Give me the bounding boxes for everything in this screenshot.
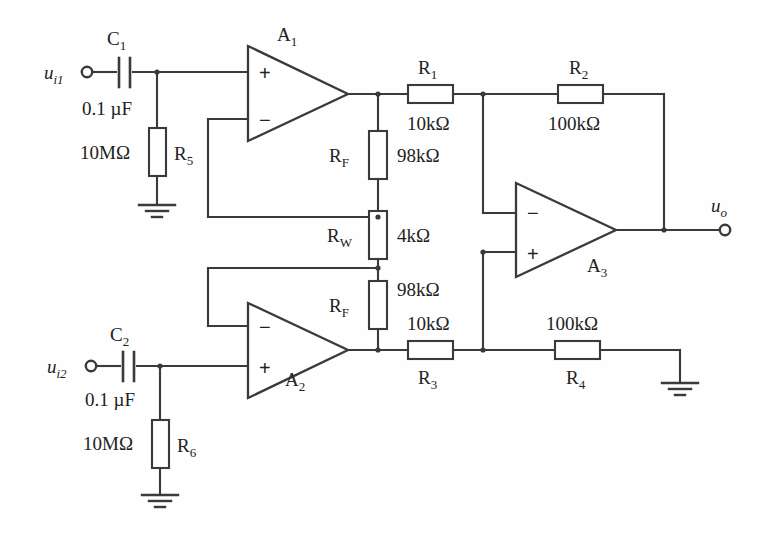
resistor-r4-body: [555, 341, 600, 359]
resistor-rf-top-body: [369, 131, 387, 179]
junction-a1-out: [375, 91, 380, 96]
terminal-ui2[interactable]: [86, 361, 96, 371]
opamp-a2-plus: +: [259, 357, 271, 379]
junction-rf-rw-top: [375, 214, 380, 219]
opamp-a1-minus: −: [259, 109, 271, 131]
label-uo: uo: [711, 195, 728, 220]
label-ui1: ui1: [44, 62, 64, 87]
resistor-rf-bottom-body: [369, 281, 387, 329]
junction-c2-r6: [157, 363, 162, 368]
junction-r1-r2: [480, 91, 485, 96]
junction-r3-r4: [480, 347, 485, 352]
label-r3: R3: [418, 367, 437, 392]
junction-a3-plus: [480, 249, 485, 254]
resistor-r2-body: [558, 85, 603, 103]
label-r1: R1: [418, 57, 437, 82]
label-rf-top: RF: [329, 145, 349, 170]
label-c1-value: 0.1 µF: [82, 98, 132, 119]
label-r3-value: 10kΩ: [407, 313, 450, 334]
label-c2: C2: [110, 324, 129, 349]
label-r5: R5: [174, 143, 193, 168]
opamp-a2-minus: −: [259, 316, 271, 338]
label-r4-value: 100kΩ: [546, 313, 598, 334]
opamp-a3-plus: +: [527, 243, 539, 265]
resistor-r6-body: [152, 420, 169, 468]
junction-c1-r5: [154, 69, 159, 74]
label-ui2: ui2: [47, 356, 67, 381]
label-rf-bottom-value: 98kΩ: [397, 279, 440, 300]
label-rw-value: 4kΩ: [397, 225, 430, 246]
label-rf-bottom: RF: [329, 295, 349, 320]
label-a1: A1: [277, 24, 297, 49]
junction-rw-rf-bottom: [375, 265, 380, 270]
circuit-schematic: ui1 C1 0.1 µF 10MΩ R5 A1 + − R1 10kΩ R2 …: [0, 0, 774, 542]
junction-output-rail: [661, 227, 666, 232]
label-r6: R6: [177, 435, 197, 460]
label-a3: A3: [587, 255, 607, 280]
resistor-r3-body: [408, 341, 453, 359]
resistor-r5-body: [149, 128, 166, 176]
label-r4: R4: [566, 367, 586, 392]
junction-a2-out: [375, 347, 380, 352]
label-r2: R2: [569, 57, 588, 82]
circuit-diagram-canvas: ui1 C1 0.1 µF 10MΩ R5 A1 + − R1 10kΩ R2 …: [0, 0, 774, 542]
label-c1: C1: [107, 28, 126, 53]
opamp-a3-minus: −: [527, 202, 539, 224]
resistor-r1-body: [408, 85, 453, 103]
label-rf-top-value: 98kΩ: [397, 145, 440, 166]
label-r1-value: 10kΩ: [407, 113, 450, 134]
label-r5-value: 10MΩ: [80, 142, 130, 163]
label-r6-value: 10MΩ: [83, 433, 133, 454]
terminal-uo[interactable]: [720, 225, 730, 235]
label-c2-value: 0.1 µF: [85, 389, 135, 410]
opamp-a1-plus: +: [259, 62, 271, 84]
label-r2-value: 100kΩ: [548, 113, 600, 134]
terminal-ui1[interactable]: [82, 67, 92, 77]
label-rw: RW: [327, 225, 353, 250]
